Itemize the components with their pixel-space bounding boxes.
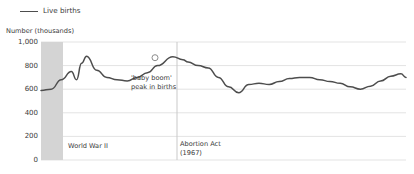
live-births-chart: Live births Number (thousands) 020040060… [0,0,414,174]
annotation-abortion-act: Abortion Act (1967) [180,140,221,158]
annotation-baby-boom: 'baby boom' peak in births [131,74,176,92]
live-births-line [41,56,406,93]
world-war-2-shaded-band [41,42,63,160]
baby-boom-peak-marker [152,55,158,61]
annotation-world-war-2: World War II [68,142,108,151]
